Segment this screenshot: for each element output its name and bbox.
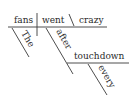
object-modifier-word: every xyxy=(96,63,118,91)
complement-word: crazy xyxy=(79,15,104,25)
subject-modifier-word: The xyxy=(19,29,36,49)
verb-word: went xyxy=(42,15,65,25)
sentence-diagram: fans went crazy The after touchdown ever… xyxy=(0,0,134,99)
object-word: touchdown xyxy=(74,51,125,61)
subject-word: fans xyxy=(14,15,33,25)
complement-divider xyxy=(69,14,74,26)
